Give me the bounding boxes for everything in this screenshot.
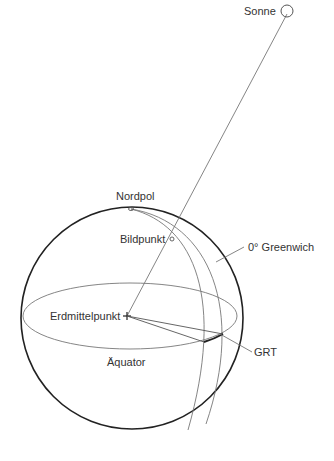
greenwich-label: 0° Greenwich (248, 241, 314, 253)
bildpunkt-label: Bildpunkt (120, 233, 165, 245)
grt-line-greenwich (127, 316, 223, 334)
grt-leader (220, 334, 252, 352)
greenwich-leader (216, 247, 244, 262)
earth-sun-diagram: Sonne Nordpol Bildpunkt 0° Greenwich Erd… (0, 0, 334, 461)
center-label: Erdmittelpunkt (50, 310, 120, 322)
grt-arc (204, 334, 223, 342)
sun-ray-line (127, 14, 287, 316)
bildpunkt-marker (170, 237, 174, 241)
equator-label: Äquator (107, 356, 146, 368)
sun-label: Sonne (244, 5, 276, 17)
grt-label: GRT (254, 346, 277, 358)
north-pole-label: Nordpol (116, 190, 155, 202)
sun-icon (281, 5, 293, 17)
grt-line-bildpunkt (127, 316, 204, 342)
